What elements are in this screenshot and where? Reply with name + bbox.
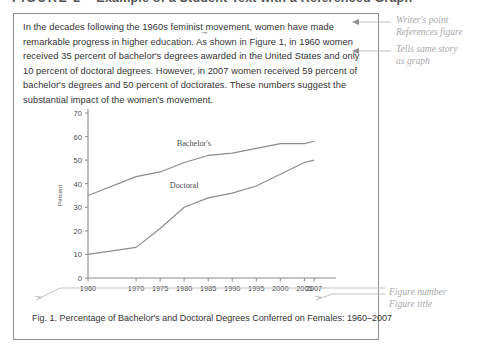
annotation-figure-title: Figure title	[389, 298, 432, 310]
svg-text:30: 30	[74, 203, 82, 212]
svg-text:60: 60	[74, 133, 82, 142]
svg-text:1995: 1995	[248, 284, 264, 293]
svg-text:1975: 1975	[152, 284, 168, 293]
svg-text:1985: 1985	[200, 284, 216, 293]
annotation-tells-same-story: Tells same story as graph	[396, 43, 457, 66]
svg-text:Bachelor's: Bachelor's	[177, 139, 211, 148]
svg-text:50: 50	[74, 156, 82, 165]
svg-text:Percent: Percent	[56, 185, 63, 207]
svg-text:20: 20	[74, 227, 82, 236]
svg-text:1960: 1960	[80, 284, 96, 293]
chart-svg: 010203040506070Percent196019701975198019…	[14, 94, 380, 294]
svg-text:Doctoral: Doctoral	[170, 181, 199, 190]
annotation-writers-point: Writer's point References figure	[396, 14, 463, 37]
svg-text:1990: 1990	[224, 284, 240, 293]
annotation-writers-point-line1: Writer's point	[396, 14, 463, 26]
figure-caption: Fig. 1. Percentage of Bachelor's and Doc…	[32, 313, 392, 323]
figure-heading: FIGURE 2 Example of a Student Text with …	[12, 0, 412, 5]
svg-text:2007: 2007	[306, 284, 322, 293]
svg-text:1980: 1980	[176, 284, 192, 293]
student-text-box: In the decades following the 1960s femin…	[13, 13, 379, 340]
svg-text:40: 40	[74, 180, 82, 189]
annotation-references-figure: References figure	[396, 26, 463, 38]
annotation-figure-number: Figure number	[389, 286, 446, 298]
svg-text:1970: 1970	[128, 284, 144, 293]
annotation-tells-same-story-line1: Tells same story	[396, 43, 457, 55]
svg-text:0: 0	[78, 274, 82, 283]
line-chart: 010203040506070Percent196019701975198019…	[14, 94, 380, 294]
annotation-tells-same-story-line2: as graph	[396, 55, 457, 67]
figure-heading-number: FIGURE 2	[12, 0, 82, 5]
svg-text:70: 70	[74, 109, 82, 118]
svg-text:10: 10	[74, 250, 82, 259]
svg-text:2000: 2000	[272, 284, 288, 293]
figure-heading-title: Example of a Student Text with a Referen…	[96, 0, 412, 5]
screenshot-root: FIGURE 2 Example of a Student Text with …	[0, 0, 483, 359]
